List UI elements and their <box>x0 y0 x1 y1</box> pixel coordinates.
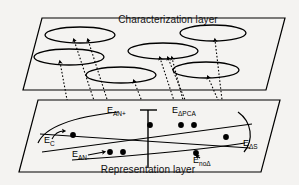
point-EdPCA-2 <box>191 122 197 128</box>
label-subscript: noΔ <box>199 160 211 167</box>
point-EC <box>70 132 76 138</box>
diagram-canvas: Characterization layer ECEAN+EAN-EΔPCAEn… <box>0 0 299 185</box>
label-subscript: AN- <box>78 154 89 161</box>
characterization-layer-panel <box>23 18 285 90</box>
label-subscript: ΔPCA <box>178 110 196 117</box>
point-EdS <box>223 134 229 140</box>
characterization-layer-group: Characterization layer <box>23 14 285 90</box>
point-EAN-minus-2 <box>120 149 126 155</box>
representation-layer-group: ECEAN+EAN-EΔPCAEnoΔEΔS Representation la… <box>19 100 280 175</box>
figure-container: Characterization layer ECEAN+EAN-EΔPCAEn… <box>0 0 299 185</box>
label-subscript: C <box>50 140 55 147</box>
label-subscript: ΔS <box>249 143 258 150</box>
representation-layer-title: Representation layer <box>101 164 196 175</box>
point-EAN-minus-1 <box>107 149 113 155</box>
label-subscript: AN+ <box>113 110 126 117</box>
point-EAN-plus <box>147 122 153 128</box>
characterization-layer-title: Characterization layer <box>118 14 218 25</box>
representation-layer-panel <box>19 100 280 172</box>
point-EdPCA-1 <box>178 122 184 128</box>
